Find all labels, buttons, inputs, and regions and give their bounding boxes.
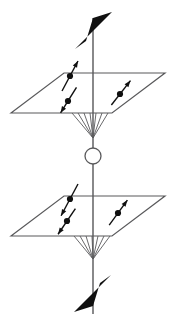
center-circle [85, 148, 101, 164]
spin-marker-lower-left-bottom-dot [64, 218, 70, 224]
spin-marker-upper-left-bottom-dot [65, 98, 71, 104]
spin-marker-lower-right-dot [115, 210, 121, 216]
spin-planes-diagram [0, 0, 175, 324]
spin-marker-upper-left-top-dot [67, 73, 73, 79]
figure-root [0, 0, 175, 324]
spin-marker-upper-right-dot [117, 91, 123, 97]
center-circle-group [85, 148, 101, 164]
spin-marker-lower-left-top-dot [67, 196, 73, 202]
